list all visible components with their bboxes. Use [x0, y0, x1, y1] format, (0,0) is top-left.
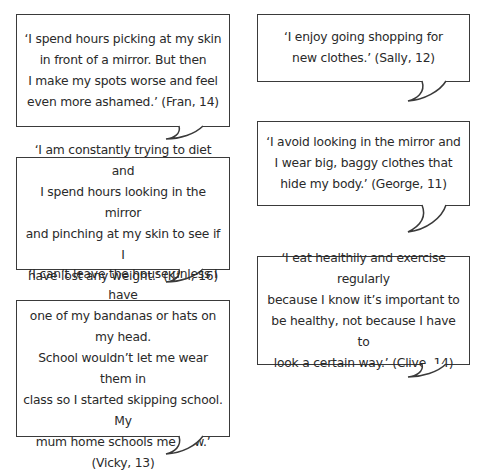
quote-text: ‘I spend hours picking at my skin in fro…	[25, 29, 222, 113]
speech-bubble-fran: ‘I spend hours picking at my skin in fro…	[16, 14, 230, 127]
quote-text: ‘I eat healthily and exercise regularly …	[264, 248, 463, 374]
speech-bubble-sally: ‘I enjoy going shopping for new clothes.…	[257, 14, 470, 82]
quote-text: ‘I enjoy going shopping for new clothes.…	[284, 27, 443, 69]
speech-bubble-vicky: ‘I can’t leave the house unless I have o…	[16, 300, 230, 437]
quote-text: ‘I avoid looking in the mirror and I wea…	[266, 132, 460, 195]
speech-bubble-tail-icon	[402, 363, 452, 383]
speech-bubble-karl: ‘I am constantly trying to diet and I sp…	[16, 157, 230, 270]
speech-bubble-tail-icon	[160, 435, 210, 459]
speech-bubble-george: ‘I avoid looking in the mirror and I wea…	[257, 121, 470, 206]
speech-bubble-tail-icon	[402, 80, 452, 106]
speech-bubble-clive: ‘I eat healthily and exercise regularly …	[257, 256, 470, 365]
speech-bubble-tail-icon	[402, 204, 452, 236]
